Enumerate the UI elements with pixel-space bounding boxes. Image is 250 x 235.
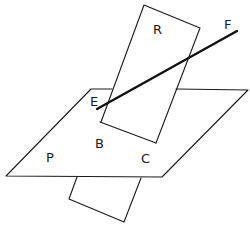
line-ef [97,31,237,109]
label-r: R [153,22,162,37]
label-c: C [141,151,150,166]
plane-p [6,89,248,177]
label-e: E [90,94,98,109]
plane-r-lower [69,177,141,222]
geometry-diagram: R F E B C P [0,0,250,235]
label-p: P [46,150,54,165]
plane-r [100,5,200,143]
label-f: F [224,17,231,32]
label-b: B [95,136,104,151]
